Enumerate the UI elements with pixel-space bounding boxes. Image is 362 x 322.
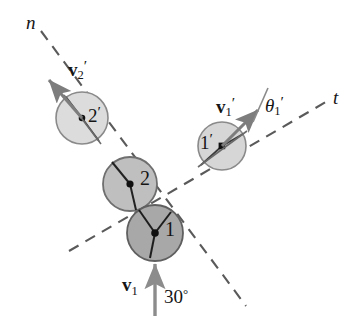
velocity-1-prime-mark: ′	[232, 94, 235, 111]
ball-2-prime-mark: ′	[98, 103, 101, 120]
t-axis-label: t	[333, 88, 338, 107]
theta-prime-mark: ′	[281, 93, 284, 110]
impact-angle-value: 30	[164, 286, 183, 307]
degree-sign: °	[183, 286, 188, 301]
velocity-2-prime-mark: ′	[84, 57, 87, 74]
velocity-1-initial-label: v1	[122, 275, 138, 297]
ball-1-center-dot	[151, 229, 159, 237]
velocity-2-prime-symbol: v	[68, 59, 78, 80]
ball-1-prime-label: 1′	[200, 131, 213, 152]
ball-1-label: 1	[165, 219, 175, 239]
ball-1-prime-number: 1	[200, 132, 210, 153]
theta-1-prime-label: θ1′	[265, 94, 284, 118]
ball-2-prime-label: 2′	[88, 104, 101, 125]
ball-2-prime-number: 2	[88, 105, 98, 126]
ball-1-prime-mark: ′	[210, 130, 213, 147]
velocity-1-subscript: 1	[132, 284, 138, 298]
velocity-2-prime-label: v2′	[68, 58, 87, 82]
impact-angle-label: 30°	[164, 287, 188, 306]
velocity-1-prime-symbol: v	[216, 96, 226, 117]
ball-2-center-dot	[126, 180, 133, 187]
n-axis-label: n	[26, 13, 36, 32]
physics-diagram-canvas: n t v2′ 2′ v1′ 1′ θ1′ 2 1 v1 30°	[0, 0, 362, 322]
ball-2-label: 2	[140, 168, 150, 188]
collision-diagram-svg	[0, 0, 362, 322]
theta-symbol: θ	[265, 95, 274, 116]
velocity-1-symbol: v	[122, 274, 132, 295]
velocity-1-prime-label: v1′	[216, 95, 235, 119]
